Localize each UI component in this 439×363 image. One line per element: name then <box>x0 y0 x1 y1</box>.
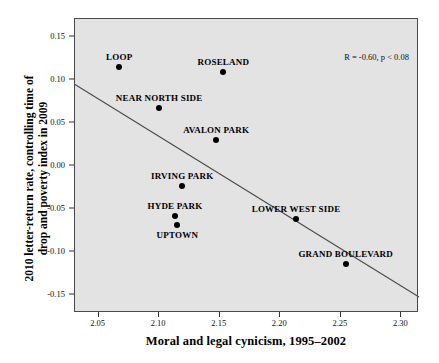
plot-inner: LOOPROSELANDNEAR NORTH SIDEAVALON PARKIR… <box>75 19 417 311</box>
x-axis-tick-label: 2.05 <box>90 318 105 328</box>
data-point <box>179 183 185 189</box>
data-point <box>172 213 178 219</box>
data-point-label: UPTOWN <box>157 230 199 240</box>
x-axis-tick-label: 2.25 <box>332 318 347 328</box>
y-axis-tick-label: 0.00 <box>0 160 65 170</box>
x-axis-tick-label: 2.10 <box>151 318 166 328</box>
data-point-label: LOOP <box>106 52 132 62</box>
y-axis-tick-label: 0.05 <box>0 117 65 127</box>
x-axis-tick-mark <box>158 312 159 317</box>
data-point-label: NEAR NORTH SIDE <box>116 93 203 103</box>
scatter-plot-figure: 2010 letter-return rate, controlling tim… <box>0 0 439 363</box>
plot-panel: LOOPROSELANDNEAR NORTH SIDEAVALON PARKIR… <box>74 18 418 312</box>
x-axis-tick-mark <box>340 312 341 317</box>
x-axis-title: Moral and legal cynicism, 1995–2002 <box>74 334 418 349</box>
data-point-label: AVALON PARK <box>183 125 249 135</box>
x-axis-tick-mark <box>98 312 99 317</box>
x-axis-tick-label: 2.30 <box>393 318 408 328</box>
data-point-label: IRVING PARK <box>151 171 213 181</box>
data-point-label: LOWER WEST SIDE <box>252 204 341 214</box>
data-point-label: HYDE PARK <box>147 201 202 211</box>
data-point <box>343 261 349 267</box>
data-point <box>174 222 180 228</box>
correlation-annotation: R = -0.60, p < 0.08 <box>344 52 409 62</box>
x-axis-tick-label: 2.20 <box>272 318 287 328</box>
y-axis-tick-label: 0.15 <box>0 31 65 41</box>
data-point-label: ROSELAND <box>198 57 250 67</box>
x-axis-tick-mark <box>400 312 401 317</box>
x-axis-tick-mark <box>279 312 280 317</box>
y-axis-tick-label: -0.15 <box>0 289 65 299</box>
y-axis-tick-label: 0.10 <box>0 74 65 84</box>
y-axis-tick-label: -0.10 <box>0 246 65 256</box>
data-point-label: GRAND BOULEVARD <box>298 249 393 259</box>
x-axis-tick-mark <box>219 312 220 317</box>
y-axis-tick-label: -0.05 <box>0 203 65 213</box>
x-axis-tick-label: 2.15 <box>211 318 226 328</box>
